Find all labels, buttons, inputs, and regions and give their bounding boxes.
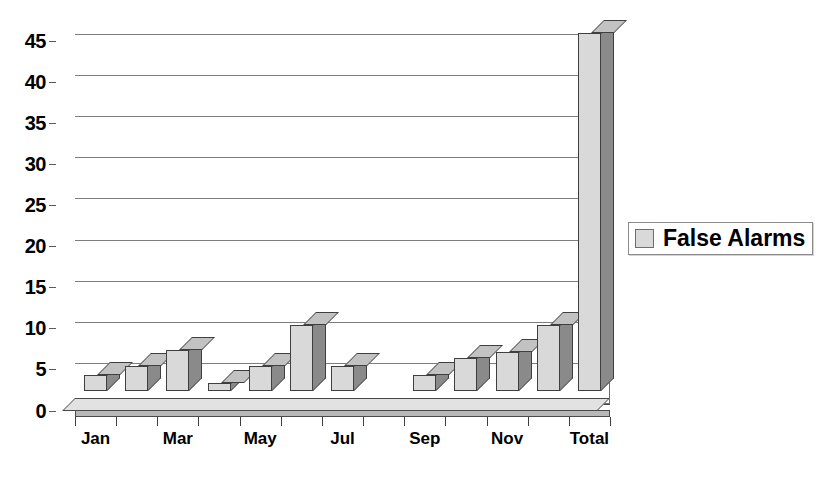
bar[interactable] xyxy=(578,33,601,391)
x-tick-mark xyxy=(157,417,158,426)
bar[interactable] xyxy=(496,352,519,391)
x-tick-mark xyxy=(116,417,117,426)
x-tick-mark xyxy=(445,417,446,426)
plot-floor xyxy=(62,404,610,417)
y-tick-label: 40 xyxy=(25,70,46,93)
bar-side-face xyxy=(601,20,614,391)
bar-front-face xyxy=(413,375,436,391)
y-tick-mark xyxy=(49,82,56,83)
bar-slot xyxy=(537,34,560,404)
bar-front-face xyxy=(249,366,272,391)
x-tick-mark xyxy=(363,417,364,426)
y-tick-label: 10 xyxy=(25,317,46,340)
bar-front-face xyxy=(208,383,231,391)
bar-slot xyxy=(249,34,272,404)
x-tick-mark xyxy=(404,417,405,426)
bar-front-face xyxy=(125,366,148,391)
bar-slot xyxy=(496,34,519,404)
x-tick-label: Mar xyxy=(163,429,193,449)
y-tick-label: 0 xyxy=(35,399,46,422)
bar[interactable] xyxy=(249,366,272,391)
x-tick-label: May xyxy=(244,429,277,449)
x-tick-label: Sep xyxy=(409,429,440,449)
y-axis: 051015202530354045 xyxy=(0,34,56,417)
x-axis: JanMarMayJulSepNovTotal xyxy=(62,417,610,467)
bar-front-face xyxy=(166,350,189,391)
bar-slot xyxy=(84,34,107,404)
y-tick-mark xyxy=(49,369,56,370)
bar[interactable] xyxy=(454,358,477,391)
bar-front-face xyxy=(578,33,601,391)
bar[interactable] xyxy=(413,375,436,391)
x-tick-mark xyxy=(198,417,199,426)
legend-label: False Alarms xyxy=(663,227,805,250)
y-tick-mark xyxy=(49,41,56,42)
bar-front-face xyxy=(454,358,477,391)
x-tick-label: Jan xyxy=(81,429,110,449)
bar[interactable] xyxy=(125,366,148,391)
chart-figure: 051015202530354045 JanMarMayJulSepNovTot… xyxy=(0,0,840,478)
bar[interactable] xyxy=(290,325,313,391)
x-tick-mark xyxy=(322,417,323,426)
x-tick-mark xyxy=(240,417,241,426)
bar[interactable] xyxy=(84,375,107,391)
y-tick-mark xyxy=(49,287,56,288)
y-tick-mark xyxy=(49,328,56,329)
plot-floor-face xyxy=(75,410,610,417)
bar-slot xyxy=(166,34,189,404)
x-tick-mark xyxy=(281,417,282,426)
y-tick-label: 30 xyxy=(25,152,46,175)
y-tick-mark xyxy=(49,123,56,124)
bar-slot xyxy=(372,34,395,404)
bar[interactable] xyxy=(331,366,354,391)
x-tick-mark xyxy=(75,417,76,426)
y-tick-label: 35 xyxy=(25,111,46,134)
bar-series-false-alarms xyxy=(75,34,610,404)
x-tick-label: Nov xyxy=(491,429,523,449)
y-tick-mark xyxy=(49,246,56,247)
x-tick-label: Jul xyxy=(330,429,355,449)
bar-slot xyxy=(413,34,436,404)
chart-legend[interactable]: False Alarms xyxy=(628,222,813,255)
bar-slot xyxy=(125,34,148,404)
y-tick-mark xyxy=(49,164,56,165)
y-tick-label: 15 xyxy=(25,276,46,299)
bar-slot xyxy=(331,34,354,404)
bar[interactable] xyxy=(166,350,189,391)
plot-area xyxy=(62,34,610,417)
x-tick-mark xyxy=(528,417,529,426)
bar-slot xyxy=(290,34,313,404)
bar-front-face xyxy=(84,375,107,391)
bar[interactable] xyxy=(208,383,231,391)
x-tick-mark xyxy=(569,417,570,426)
bar-top-face xyxy=(591,20,627,33)
x-tick-mark xyxy=(487,417,488,426)
bar-front-face xyxy=(290,325,313,391)
y-tick-label: 5 xyxy=(35,358,46,381)
y-tick-mark xyxy=(49,205,56,206)
x-tick-label: Total xyxy=(570,429,609,449)
y-tick-label: 25 xyxy=(25,193,46,216)
bar-front-face xyxy=(331,366,354,391)
y-tick-label: 45 xyxy=(25,29,46,52)
y-tick-mark xyxy=(49,411,56,412)
bar-front-face xyxy=(537,325,560,391)
legend-swatch-icon xyxy=(635,229,654,248)
bar-slot xyxy=(454,34,477,404)
y-tick-label: 20 xyxy=(25,235,46,258)
bar-slot xyxy=(578,34,601,404)
bar-slot xyxy=(208,34,231,404)
x-tick-mark xyxy=(610,417,611,426)
bar[interactable] xyxy=(537,325,560,391)
bar-front-face xyxy=(496,352,519,391)
